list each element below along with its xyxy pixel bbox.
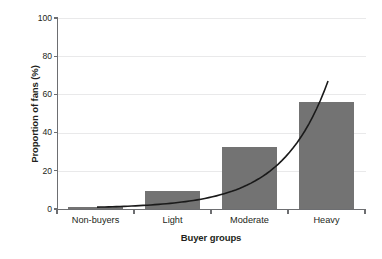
y-axis-tick-labels: 020406080100	[28, 18, 52, 209]
x-axis-tick	[364, 210, 365, 215]
x-axis-title: Buyer groups	[57, 232, 365, 243]
trend-curve	[57, 18, 365, 209]
x-axis-tick	[133, 210, 134, 215]
x-axis-tick	[56, 210, 57, 215]
x-axis-tick-label: Light	[134, 214, 211, 226]
y-axis-tick-label: 100	[30, 14, 52, 23]
x-axis-tick	[287, 210, 288, 215]
y-axis-tick-label: 20	[30, 167, 52, 176]
x-axis-tick-label: Moderate	[211, 214, 288, 226]
bar-chart: Proportion of fans (%) 020406080100 Non-…	[0, 0, 382, 259]
x-axis-tick	[210, 210, 211, 215]
y-axis-tick-label: 0	[30, 205, 52, 214]
trend-curve-path	[97, 81, 328, 207]
x-axis-tick-label: Heavy	[288, 214, 365, 226]
y-axis-tick-label: 80	[30, 52, 52, 61]
x-axis-tick-labels: Non-buyersLightModerateHeavy	[57, 214, 365, 228]
y-axis-tick-label: 40	[30, 128, 52, 137]
x-axis-tick-label: Non-buyers	[57, 214, 134, 226]
y-axis-tick-label: 60	[30, 90, 52, 99]
